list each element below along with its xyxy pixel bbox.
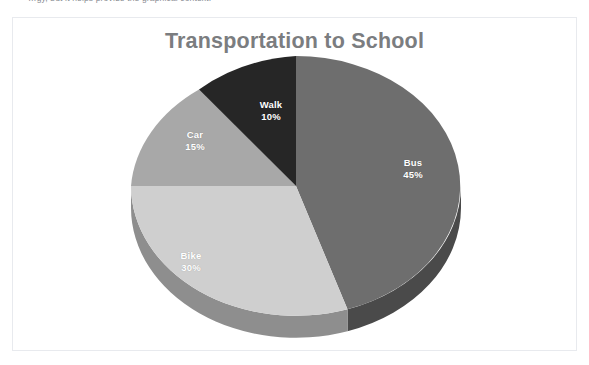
- pie-slices: [131, 56, 460, 316]
- pie-label-walk: Walk 10%: [245, 99, 297, 123]
- chart-figure-frame: Transportation to School: [12, 17, 577, 351]
- pie-label-car-name: Car: [187, 129, 203, 140]
- pie-label-bus-percent: 45%: [387, 169, 439, 181]
- pie-label-bike-percent: 30%: [165, 262, 217, 274]
- clipped-caption-text: …gy, but it helps provide the graphical …: [28, 0, 488, 4]
- pie-label-bike: Bike 30%: [165, 250, 217, 274]
- pie-label-walk-name: Walk: [260, 99, 283, 110]
- pie-chart: Bus 45% Bike 30% Car 15% Walk 10%: [13, 18, 578, 352]
- pie-label-bus: Bus 45%: [387, 157, 439, 181]
- pie-label-bus-name: Bus: [404, 157, 423, 168]
- pie-chart-svg: [13, 18, 578, 352]
- pie-label-car-percent: 15%: [172, 141, 218, 153]
- pie-label-bike-name: Bike: [181, 250, 202, 261]
- pie-label-walk-percent: 10%: [245, 111, 297, 123]
- pie-label-car: Car 15%: [172, 129, 218, 153]
